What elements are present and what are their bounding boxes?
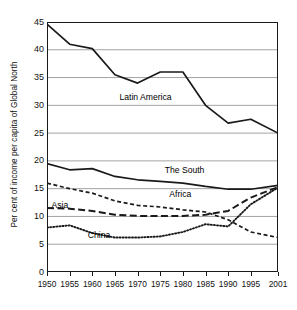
x-tick-mark-1990 <box>228 272 229 276</box>
x-tick-mark-1965 <box>115 272 116 276</box>
x-tick-mark-1980 <box>183 272 184 276</box>
chart-figure: Per cent of income per capita of Global … <box>0 0 297 310</box>
x-tick-mark-1950 <box>47 272 48 276</box>
series-label-latin-america: Latin America <box>119 92 171 102</box>
y-tick-45: 45 <box>18 18 44 27</box>
y-tick-10: 10 <box>18 212 44 221</box>
x-tick-2001: 2001 <box>261 280 295 289</box>
x-tick-mark-2001 <box>278 272 279 276</box>
x-tick-mark-1955 <box>70 272 71 276</box>
y-tick-5: 5 <box>18 240 44 249</box>
y-tick-25: 25 <box>18 129 44 138</box>
series-label-asia: Asia <box>52 200 69 210</box>
x-tick-mark-1960 <box>92 272 93 276</box>
series-label-china: China <box>88 230 110 240</box>
y-tick-30: 30 <box>18 101 44 110</box>
series-label-africa: Africa <box>169 189 191 199</box>
x-axis-tick-labels: 1950195519601965197019751980198519901995… <box>0 276 297 296</box>
y-tick-20: 20 <box>18 156 44 165</box>
series-label-the-south: The South <box>165 165 205 175</box>
x-tick-mark-1985 <box>206 272 207 276</box>
y-tick-15: 15 <box>18 184 44 193</box>
y-axis-tick-labels: 051015202530354045 <box>18 0 44 310</box>
y-tick-35: 35 <box>18 73 44 82</box>
x-tick-mark-1995 <box>251 272 252 276</box>
x-tick-mark-1970 <box>138 272 139 276</box>
plot-border <box>47 22 278 272</box>
y-tick-40: 40 <box>18 45 44 54</box>
x-tick-mark-1975 <box>160 272 161 276</box>
plot-area <box>47 22 278 272</box>
